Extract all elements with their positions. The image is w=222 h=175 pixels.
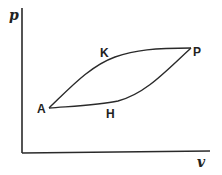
point-label-k: K [100,46,109,60]
y-axis-label: p [9,7,19,23]
pv-diagram: p v A K P H [0,0,222,175]
x-axis-label: v [197,154,206,170]
point-label-p: P [193,45,201,59]
point-label-h: H [106,107,115,121]
upper-curve [49,48,191,108]
point-label-a: A [37,102,46,116]
x-axis [22,151,210,153]
lower-curve [49,48,191,108]
